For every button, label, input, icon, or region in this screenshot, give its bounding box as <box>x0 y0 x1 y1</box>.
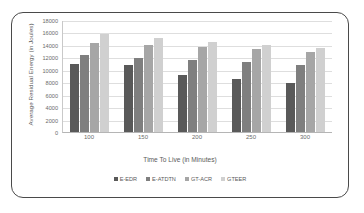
x-axis-tick: 100 <box>62 134 116 140</box>
bar-e-edr-100[interactable] <box>70 64 79 132</box>
bar-e-atdtn-150[interactable] <box>134 58 143 132</box>
legend-swatch-icon <box>221 177 225 181</box>
bar-gteer-200[interactable] <box>208 42 217 132</box>
legend-label: E-ATDTN <box>152 176 176 182</box>
chart-frame: Average Residual Energy (in Joules) 0200… <box>11 12 349 198</box>
bar-group <box>70 21 109 132</box>
bar-e-edr-300[interactable] <box>286 83 295 132</box>
y-axis-title: Average Residual Energy (in Joules) <box>27 12 34 137</box>
bar-group <box>178 21 217 132</box>
bar-e-edr-150[interactable] <box>124 65 133 132</box>
bar-e-edr-250[interactable] <box>232 79 241 132</box>
bar-e-atdtn-250[interactable] <box>242 62 251 132</box>
y-axis-tick: 6000 <box>46 93 58 99</box>
bar-gt-acr-150[interactable] <box>144 45 153 132</box>
legend-item-gt-acr[interactable]: GT-ACR <box>185 176 212 182</box>
bar-gteer-150[interactable] <box>154 38 163 132</box>
x-axis-tick-labels: 100150200250300 <box>62 134 332 140</box>
bar-gt-acr-200[interactable] <box>198 47 207 132</box>
bar-gteer-250[interactable] <box>262 45 271 132</box>
bar-gt-acr-100[interactable] <box>90 43 99 132</box>
bar-group <box>232 21 271 132</box>
legend-item-e-atdtn[interactable]: E-ATDTN <box>146 176 176 182</box>
bar-e-atdtn-200[interactable] <box>188 60 197 132</box>
y-axis-tick: 8000 <box>46 80 58 86</box>
bar-group <box>124 21 163 132</box>
bar-series-layer <box>63 21 332 132</box>
x-axis-title: Time To Live (in Minutes) <box>12 156 348 163</box>
bar-e-atdtn-100[interactable] <box>80 55 89 132</box>
chart-legend: E-EDRE-ATDTNGT-ACRGTEER <box>12 176 348 182</box>
legend-swatch-icon <box>114 177 118 181</box>
bar-gteer-100[interactable] <box>100 34 109 132</box>
legend-label: GTEER <box>227 176 246 182</box>
y-axis-tick: 2000 <box>46 118 58 124</box>
x-axis-tick: 200 <box>170 134 224 140</box>
legend-swatch-icon <box>185 177 189 181</box>
x-axis-tick: 300 <box>278 134 332 140</box>
y-axis-tick: 16000 <box>42 30 58 36</box>
legend-item-gteer[interactable]: GTEER <box>221 176 246 182</box>
legend-label: GT-ACR <box>191 176 212 182</box>
plot-wrap: 0200040006000800010000120001400016000180… <box>36 21 332 143</box>
bar-e-atdtn-300[interactable] <box>296 65 305 132</box>
legend-swatch-icon <box>146 177 150 181</box>
bar-gt-acr-300[interactable] <box>306 52 315 132</box>
x-axis-tick: 250 <box>224 134 278 140</box>
y-axis-tick: 12000 <box>42 55 58 61</box>
y-axis-tick: 0 <box>55 130 58 136</box>
plot-area <box>62 21 332 133</box>
legend-label: E-EDR <box>120 176 137 182</box>
bar-group <box>286 21 325 132</box>
y-axis-tick: 4000 <box>46 105 58 111</box>
y-axis-tick: 10000 <box>42 68 58 74</box>
y-axis-tick-labels: 0200040006000800010000120001400016000180… <box>36 21 60 133</box>
legend-item-e-edr[interactable]: E-EDR <box>114 176 137 182</box>
bar-gt-acr-250[interactable] <box>252 49 261 132</box>
bar-gteer-300[interactable] <box>316 48 325 132</box>
y-axis-tick: 18000 <box>42 18 58 24</box>
bar-e-edr-200[interactable] <box>178 75 187 132</box>
y-axis-tick: 14000 <box>42 43 58 49</box>
x-axis-tick: 150 <box>116 134 170 140</box>
